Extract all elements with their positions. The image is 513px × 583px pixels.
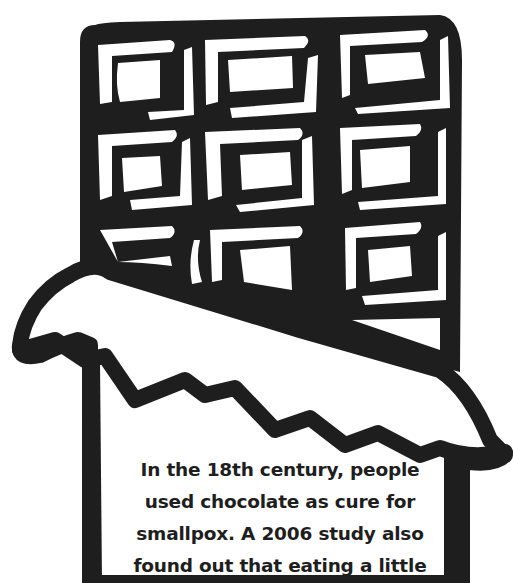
caption-line-2: used chocolate as cure for bbox=[110, 486, 450, 518]
caption-line-3: smallpox. A 2006 study also bbox=[110, 518, 450, 550]
wrapper-left-side bbox=[92, 362, 94, 583]
caption-line-4: found out that eating a little bbox=[110, 550, 450, 582]
caption-line-1: In the 18th century, people bbox=[110, 454, 450, 486]
fact-caption: In the 18th century, people used chocola… bbox=[110, 454, 450, 582]
